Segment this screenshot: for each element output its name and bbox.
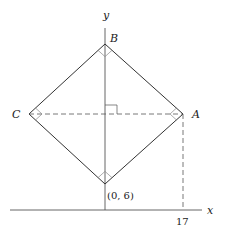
vertex-bottom-label: (0, 6)	[107, 190, 134, 201]
vertex-a-label: A	[191, 108, 200, 121]
coordinate-diagram: y x B C A (0, 6) 17	[0, 0, 228, 241]
vertex-c-label: C	[12, 108, 21, 121]
right-angle-marker-center	[105, 105, 117, 114]
x-axis-label: x	[207, 204, 214, 217]
y-axis-label: y	[102, 9, 110, 22]
vertex-b-label: B	[109, 32, 118, 45]
x-tick-17: 17	[176, 216, 189, 227]
